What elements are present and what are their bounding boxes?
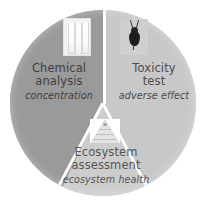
diagram-canvas: Chemical analysis concentration Toxicity… [0,0,208,210]
label-toxicity-test: Toxicity test adverse effect [108,62,200,101]
label-title-line1: Ecosystem [48,146,164,159]
cuvette-tube [68,23,75,54]
insect-tail [133,44,135,50]
insect-photo-icon [120,19,148,55]
label-subtitle: concentration [16,91,102,102]
label-subtitle: ecosystem health [48,175,164,186]
label-title-line1: Toxicity [108,62,200,75]
label-title-line2: assessment [48,159,164,172]
pyramid-mask [90,119,120,144]
segment-divider-top [103,10,106,104]
ecological-pyramid-icon [90,119,120,144]
label-title-line2: test [108,75,200,88]
label-ecosystem-assessment: Ecosystem assessment ecosystem health [48,146,164,185]
cuvette-tube [82,23,89,54]
cuvettes-photo-icon [63,18,91,56]
label-subtitle: adverse effect [108,91,200,102]
label-chemical-analysis: Chemical analysis concentration [16,62,102,101]
label-title-line1: Chemical [16,62,102,75]
insect-body [129,31,140,46]
label-title-line2: analysis [16,75,102,88]
cuvette-tube [75,23,82,56]
